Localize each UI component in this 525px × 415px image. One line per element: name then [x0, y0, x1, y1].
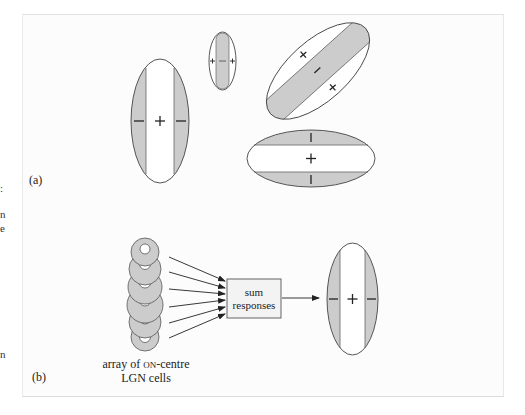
sum-responses-box: sum responses [227, 279, 281, 318]
lgn-cell-array [127, 238, 163, 351]
receptive-field-horizontal [240, 130, 385, 187]
panel-a-label: (a) [29, 173, 42, 187]
sum-box-line1: sum [245, 286, 264, 298]
input-arrows [169, 257, 225, 338]
lgn-caption-line1: array of on-centre [103, 357, 190, 371]
panel-b-label: (b) [32, 370, 46, 384]
lgn-caption-line2: LGN cells [121, 371, 171, 385]
output-receptive-field [327, 235, 378, 365]
receptive-field-diagram: (a) [0, 0, 525, 415]
receptive-field-vertical-large [131, 50, 189, 200]
lgn-cell [131, 238, 159, 266]
receptive-field-vertical-narrow [209, 32, 236, 90]
receptive-field-oblique [238, 0, 397, 147]
sum-box-line2: responses [233, 299, 276, 311]
